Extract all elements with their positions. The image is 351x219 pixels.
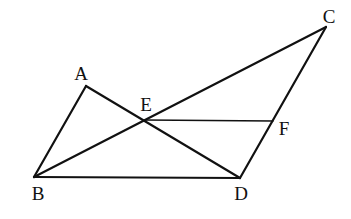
point-label-e: E — [140, 94, 152, 115]
segment-bd — [34, 177, 240, 178]
point-label-f: F — [279, 118, 290, 139]
labels-group: A B C D E F — [32, 6, 336, 204]
segment-ad — [86, 86, 240, 178]
point-label-c: C — [323, 6, 336, 27]
geometry-diagram: A B C D E F — [0, 0, 351, 219]
segments-group — [34, 27, 326, 178]
point-label-b: B — [32, 183, 45, 204]
point-label-a: A — [74, 63, 88, 84]
segment-ef — [145, 120, 273, 121]
point-label-d: D — [234, 183, 248, 204]
